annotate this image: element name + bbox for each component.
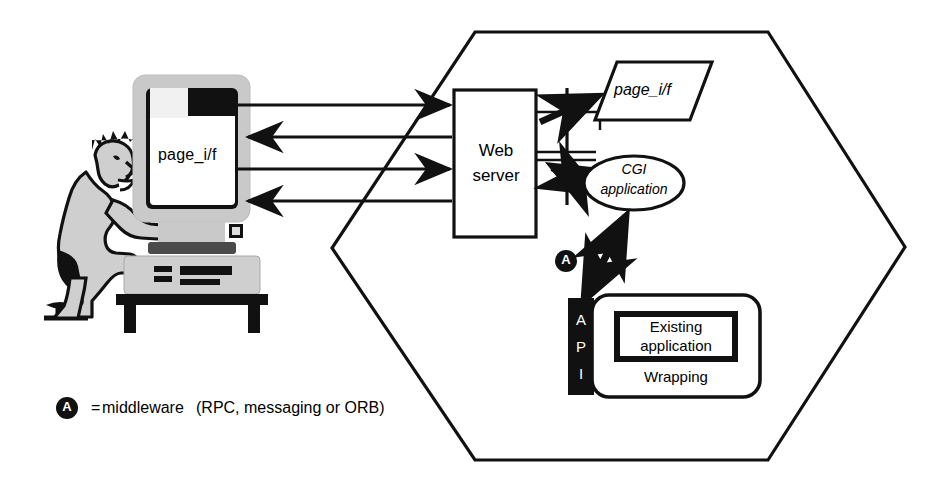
cgi-application-label-line2: application xyxy=(594,181,674,197)
legend-marker-glyph: A xyxy=(57,399,77,414)
middleware-marker-diagram-glyph: A xyxy=(556,252,576,267)
diagram-canvas: page_i/f Web server page_i/f CGI applica… xyxy=(0,0,949,485)
existing-application-label-line2: application xyxy=(620,337,732,354)
client-computer xyxy=(116,75,268,333)
cgi-application-label-line1: CGI xyxy=(609,161,659,177)
api-bar-letter-i: I xyxy=(568,365,594,382)
api-bar-letter-p: P xyxy=(568,338,594,355)
monitor-screen-label: page_i/f xyxy=(158,146,217,164)
page-if-node-label: page_i/f xyxy=(614,81,671,99)
client-server-arrow-group xyxy=(236,105,452,201)
existing-application-label-line1: Existing xyxy=(620,318,732,335)
wrapping-label: Wrapping xyxy=(614,368,738,385)
legend-equals-sign: = xyxy=(91,399,100,417)
arrow-server-to-page-if xyxy=(540,96,598,122)
web-server-label-line2: server xyxy=(466,166,526,186)
api-bar-letter-a: A xyxy=(568,311,594,328)
web-server-label-line1: Web xyxy=(472,141,520,161)
arrow-api-to-cgi xyxy=(584,216,626,300)
web-server-node xyxy=(454,90,536,237)
legend-detail: (RPC, messaging or ORB) xyxy=(196,399,385,417)
legend-term: middleware xyxy=(102,399,184,417)
